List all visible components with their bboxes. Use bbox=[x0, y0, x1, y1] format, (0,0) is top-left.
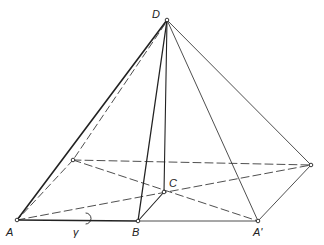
pyramid-diagram: D C A B A' γ bbox=[0, 0, 324, 245]
label-B: B bbox=[132, 226, 139, 238]
edge-backleft-backright-dashed bbox=[73, 160, 311, 165]
label-A-prime: A' bbox=[252, 226, 263, 238]
edge-D-C bbox=[164, 20, 167, 192]
label-gamma: γ bbox=[73, 226, 80, 238]
edge-D-A bbox=[17, 20, 167, 220]
edge-D-backright bbox=[167, 20, 311, 165]
edge-D-backleft-dashed bbox=[73, 24, 165, 160]
vertex-C bbox=[162, 190, 166, 194]
vertex-Aprime bbox=[256, 219, 260, 223]
label-D: D bbox=[152, 8, 160, 20]
vertex-B bbox=[136, 219, 140, 223]
vertex-back-left bbox=[71, 158, 75, 162]
vertex-back-right bbox=[309, 163, 313, 167]
vertex-A bbox=[15, 218, 19, 222]
vertex-D bbox=[165, 18, 169, 22]
label-A: A bbox=[5, 226, 13, 238]
edge-D-Aprime bbox=[167, 20, 258, 221]
angle-gamma-arc bbox=[86, 213, 91, 224]
edge-A-B bbox=[17, 220, 138, 221]
label-C: C bbox=[169, 177, 177, 189]
edge-backleft-A-dashed bbox=[19, 160, 73, 218]
